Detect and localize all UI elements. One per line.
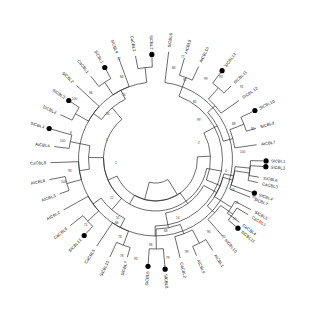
tip-branch	[119, 58, 130, 87]
taxon-label: AtCBL8	[30, 178, 46, 186]
phylogenetic-tree-figure: SlCBL3CaCBL3SlCBL7CaCBL1SlCBL11SlCBL10At…	[0, 0, 311, 318]
bootstrap-value: 25	[235, 201, 239, 205]
internal-branch	[235, 171, 250, 173]
taxon-label: SlCBL4	[30, 121, 46, 130]
bootstrap-value: 1	[106, 138, 108, 142]
tip-branch	[237, 208, 248, 215]
bootstrap-value: 79	[166, 256, 170, 260]
bootstrap-value: 98	[252, 195, 256, 199]
tip-branch	[148, 249, 149, 264]
taxon-marker-dot	[235, 226, 240, 231]
bootstrap-value: 99	[204, 77, 208, 81]
taxon-marker-dot	[66, 98, 71, 103]
bootstrap-value: 78	[120, 254, 124, 258]
bootstrap-value: 92	[183, 78, 187, 82]
bootstrap-value: 96	[89, 91, 93, 95]
tip-branch	[175, 237, 180, 258]
tip-branch	[224, 86, 231, 93]
tip-branch	[91, 76, 99, 86]
tip-branch	[248, 180, 258, 182]
taxon-label: SlCBL10	[224, 238, 239, 254]
bootstrap-value: 72	[117, 57, 121, 61]
bootstrap-value: 77	[181, 55, 185, 59]
tip-branch	[51, 162, 79, 163]
taxon-label: SlCBL2	[149, 35, 155, 50]
clade-arc	[117, 176, 180, 201]
taxon-marker-dot	[263, 164, 268, 169]
tip-branch	[127, 247, 130, 257]
bootstrap-value: 86	[120, 75, 124, 79]
tip-branch	[193, 246, 197, 255]
taxon-marker-dot	[163, 267, 168, 272]
internal-branch	[192, 230, 199, 243]
taxon-label: SlCBL2	[61, 71, 75, 85]
taxon-marker-dot	[82, 233, 87, 238]
bootstrap-value: 99	[197, 118, 201, 122]
tip-branch	[249, 176, 259, 178]
branch-arcs-group	[65, 67, 250, 249]
tip-branch	[221, 101, 239, 114]
internal-branch	[108, 176, 117, 180]
taxon-marker-dot	[102, 65, 107, 70]
taxon-label: SlCBL11	[232, 69, 248, 85]
internal-branch	[180, 193, 188, 204]
bootstrap-value: 74	[122, 93, 126, 97]
bootstrap-value: 100	[61, 180, 66, 184]
taxon-label: AtCBL3	[41, 193, 57, 203]
internal-branch	[112, 108, 122, 119]
bootstrap-value: 100	[240, 150, 245, 154]
internal-branch	[207, 168, 222, 171]
tip-branch	[60, 115, 72, 120]
internal-branch	[120, 219, 125, 228]
bootstrap-value: 86	[115, 221, 119, 225]
root-branch	[168, 179, 177, 194]
tip-branch	[163, 249, 165, 267]
taxon-label: SlCBL3	[271, 164, 286, 170]
bootstrap-value: 15	[233, 217, 237, 221]
tip-branch	[77, 85, 100, 106]
tip-branch	[192, 67, 198, 81]
clade-arc	[134, 157, 197, 201]
internal-branch	[197, 156, 210, 157]
internal-branch	[223, 177, 233, 180]
taxon-label: SlCBL5	[144, 270, 150, 285]
internal-branch	[223, 139, 233, 142]
branch-radial-group	[49, 52, 263, 267]
internal-branch	[224, 174, 234, 176]
taxon-label: AtCBL1	[213, 253, 225, 269]
taxon-label: SlCBL4	[110, 39, 120, 55]
bootstrap-value: 99	[185, 250, 189, 254]
taxon-label: SlCBL3	[51, 88, 66, 101]
root-branch	[145, 182, 150, 199]
internal-branch	[112, 198, 122, 209]
taxon-label: SlCBL1	[93, 49, 105, 65]
bootstrap-value: 93	[68, 169, 72, 173]
bootstrap-value: 2	[198, 141, 200, 145]
taxon-label: SlCBL 12	[241, 85, 259, 100]
tip-branch	[71, 102, 79, 108]
taxon-label: CaCBL1	[76, 58, 90, 74]
tip-branch	[70, 216, 83, 226]
root-arc	[149, 179, 168, 183]
clade-arc	[103, 119, 206, 211]
internal-branch	[88, 211, 99, 221]
taxon-marker-dot	[219, 68, 224, 73]
internal-branch	[93, 113, 101, 119]
bootstrap-value: 4	[225, 169, 227, 173]
bootstrap-value: 13	[231, 188, 235, 192]
taxon-label: CaCBL6	[53, 226, 69, 240]
internal-branch	[129, 195, 134, 204]
internal-branch	[67, 180, 81, 184]
taxon-marker-dot	[145, 264, 150, 269]
clade-arc	[78, 82, 232, 236]
taxon-label: SlCBL8	[163, 274, 169, 289]
bootstrap-value: 93	[219, 75, 223, 79]
internal-branch	[75, 114, 88, 121]
bootstrap-value: 94	[106, 112, 110, 116]
taxon-marker-dot	[149, 52, 154, 57]
internal-branch	[180, 224, 184, 233]
bootstrap-value: 86	[172, 66, 176, 70]
tip-branch	[60, 190, 69, 193]
taxon-marker-dot	[47, 126, 52, 131]
bootstrap-value: 96	[207, 230, 211, 234]
